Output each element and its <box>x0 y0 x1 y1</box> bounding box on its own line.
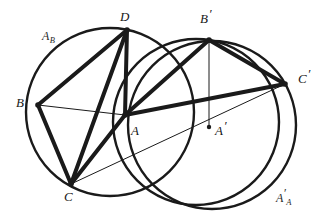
vertex-label-C-prime-base: C <box>298 71 307 86</box>
region-label-subscript: B <box>50 35 55 45</box>
vertex-label-B-prime-base: B <box>200 11 208 26</box>
segment-A-Cp <box>125 84 285 115</box>
vertex-label-B-prime: B′ <box>200 12 212 25</box>
vertex-label-D: D <box>120 10 130 23</box>
prime-mark: ′ <box>307 66 310 81</box>
segment-B-A <box>38 105 125 115</box>
prime-mark: ′ <box>224 118 227 133</box>
segment-B-C <box>38 105 71 184</box>
vertex-label-C: C <box>64 190 73 203</box>
circle-right <box>128 41 296 209</box>
vertex-label-C-prime: C′ <box>298 72 310 85</box>
prime-mark: ′ <box>209 6 212 21</box>
region-label-Aprime-sub-A: A′A <box>276 192 292 204</box>
vertex-label-B: B <box>16 96 24 109</box>
segments-group <box>38 30 285 184</box>
circles-group <box>26 28 296 209</box>
vertex-point-Cp <box>282 81 288 87</box>
vertex-point-Bp <box>206 37 212 43</box>
vertex-label-A: A <box>131 124 139 137</box>
segment-Bp-Cp <box>209 40 285 84</box>
segment-D-A <box>125 30 127 115</box>
region-label-A-sub-B: AB <box>42 30 55 42</box>
region-label-base: A <box>42 29 49 43</box>
vertex-point-B <box>35 102 41 108</box>
vertex-label-A-prime: A′ <box>215 124 227 137</box>
vertex-point-Ap <box>207 125 211 129</box>
vertex-point-C <box>68 181 74 187</box>
vertex-point-A <box>122 112 128 118</box>
vertex-label-A-prime-base: A <box>215 123 223 138</box>
geometry-figure: AB A′A B D C A B′ A′ C′ <box>0 0 327 223</box>
region-label-subscript: A <box>286 197 291 207</box>
vertex-point-D <box>124 27 130 33</box>
